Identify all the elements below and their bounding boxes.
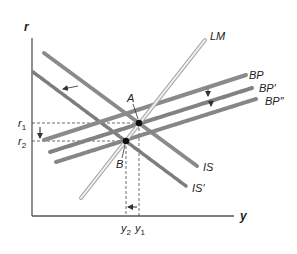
bp-curve (44, 75, 246, 140)
r2-label: r2 (18, 135, 27, 150)
bp-double-prime-label: BP″ (265, 95, 285, 107)
bp-prime-label: BP′ (259, 82, 277, 94)
is-label: IS (203, 161, 214, 173)
point-b (123, 138, 130, 145)
bp-double-prime-curve (56, 99, 256, 162)
y1-label: y1 (134, 222, 146, 237)
is-shift-arrow (63, 86, 78, 89)
point-b-label: B (116, 158, 123, 170)
lm-label: LM (210, 30, 226, 42)
point-a (136, 120, 143, 127)
is-prime-label: IS′ (192, 182, 205, 194)
bp-label: BP (249, 69, 264, 81)
point-a-label: A (126, 92, 134, 104)
x-axis-label: y (239, 209, 248, 223)
bp-prime-curve (50, 88, 252, 152)
r1-label: r1 (18, 117, 27, 132)
is-lm-bp-diagram: r y A B LM BP BP′ BP″ IS IS′ r1 r2 y2 y1 (0, 0, 297, 254)
y2-label: y2 (120, 222, 132, 237)
y-axis-label: r (24, 20, 30, 34)
